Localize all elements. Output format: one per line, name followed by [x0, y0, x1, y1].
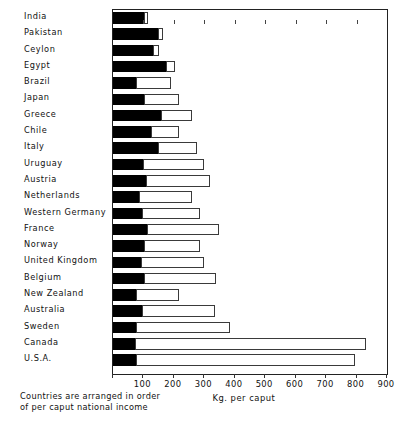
category-label: Greece: [0, 106, 108, 122]
footnote-line-2: of per caput national income: [20, 402, 160, 413]
bar-segment-light: [136, 77, 171, 89]
category-label: Austria: [0, 171, 108, 187]
plot-area: [112, 9, 388, 375]
top-tick-mark: [326, 20, 327, 24]
category-label: Egypt: [0, 57, 108, 73]
bar-segment-light: [143, 159, 204, 171]
bar-segment-light: [166, 61, 175, 73]
bar-segment-dark: [113, 224, 147, 236]
x-tick-mark: [295, 374, 296, 378]
top-tick-mark: [265, 20, 266, 24]
x-tick-mark: [112, 374, 113, 378]
bar-segment-light: [161, 110, 192, 122]
bar-segment-light: [142, 208, 200, 220]
category-label: Japan: [0, 89, 108, 105]
bar-segment-light: [158, 28, 163, 40]
bar-segment-light: [146, 175, 211, 187]
chart-footnote: Countries are arranged in order of per c…: [20, 391, 160, 412]
bars-container: [113, 10, 387, 375]
x-axis-title: Kg. per caput: [212, 393, 275, 403]
x-tick-label: 900: [377, 379, 394, 389]
category-label: Norway: [0, 236, 108, 252]
bar-segment-light: [153, 45, 159, 57]
bar-segment-dark: [113, 28, 158, 40]
bar-segment-light: [141, 257, 204, 269]
top-tick-mark: [204, 20, 205, 24]
x-tick-label: 100: [134, 379, 151, 389]
bar-segment-light: [144, 12, 148, 24]
bar-segment-dark: [113, 77, 136, 89]
top-tick-mark: [174, 20, 175, 24]
bar-segment-dark: [113, 45, 153, 57]
x-tick-label: 800: [347, 379, 364, 389]
x-tick-mark: [234, 374, 235, 378]
bar-segment-light: [136, 289, 179, 301]
category-label: Brazil: [0, 73, 108, 89]
category-label: Sweden: [0, 318, 108, 334]
top-tick-mark: [296, 20, 297, 24]
top-tick-mark: [143, 20, 144, 24]
category-label: Italy: [0, 138, 108, 154]
x-tick-mark: [173, 374, 174, 378]
x-tick-mark: [264, 374, 265, 378]
category-label: U.S.A.: [0, 350, 108, 366]
bar-segment-dark: [113, 126, 151, 138]
bar-segment-dark: [113, 175, 146, 187]
bar-segment-dark: [113, 322, 136, 334]
bar-segment-dark: [113, 191, 139, 203]
x-axis-line: [112, 374, 387, 375]
category-label: India: [0, 8, 108, 24]
x-tick-mark: [142, 374, 143, 378]
bar-segment-dark: [113, 338, 135, 350]
bar-segment-dark: [113, 12, 144, 24]
bar-segment-light: [151, 126, 179, 138]
category-label: Pakistan: [0, 24, 108, 40]
bar-segment-light: [135, 338, 366, 350]
bar-segment-dark: [113, 110, 161, 122]
category-label: Netherlands: [0, 187, 108, 203]
bar-segment-light: [147, 224, 219, 236]
x-tick-mark: [325, 374, 326, 378]
bar-segment-dark: [113, 257, 141, 269]
x-tick-label: 200: [164, 379, 181, 389]
bar-chart: India Pakistan Ceylon Egypt Brazil Japan…: [0, 0, 413, 425]
bar-segment-dark: [113, 208, 142, 220]
bar-segment-dark: [113, 142, 158, 154]
category-label: Western Germany: [0, 204, 108, 220]
bar-segment-light: [144, 240, 200, 252]
bar-segment-dark: [113, 61, 166, 73]
bar-segment-dark: [113, 289, 136, 301]
x-tick-label: 500: [256, 379, 273, 389]
x-tick-mark: [203, 374, 204, 378]
bar-segment-light: [136, 354, 355, 366]
bar-segment-light: [142, 305, 215, 317]
bar-segment-light: [144, 273, 216, 285]
category-label: Canada: [0, 334, 108, 350]
category-label: Australia: [0, 301, 108, 317]
category-label: Uruguay: [0, 155, 108, 171]
x-tick-mark: [386, 374, 387, 378]
category-label: United Kingdom: [0, 252, 108, 268]
category-label: France: [0, 220, 108, 236]
x-tick-label: 400: [225, 379, 242, 389]
bar-segment-dark: [113, 273, 144, 285]
category-label: Ceylon: [0, 41, 108, 57]
category-label: Belgium: [0, 269, 108, 285]
category-label-column: India Pakistan Ceylon Egypt Brazil Japan…: [0, 8, 108, 367]
x-tick-label: 600: [286, 379, 303, 389]
bar-segment-light: [144, 94, 179, 106]
bar-segment-light: [136, 322, 230, 334]
top-tick-mark: [357, 20, 358, 24]
bar-segment-dark: [113, 305, 142, 317]
bar-segment-dark: [113, 159, 143, 171]
bar-segment-dark: [113, 354, 136, 366]
bar-segment-light: [158, 142, 197, 154]
x-tick-label: 300: [195, 379, 212, 389]
category-label: New Zealand: [0, 285, 108, 301]
category-label: Chile: [0, 122, 108, 138]
top-tick-mark: [235, 20, 236, 24]
footnote-line-1: Countries are arranged in order: [20, 391, 160, 402]
x-tick-mark: [356, 374, 357, 378]
bar-segment-dark: [113, 240, 144, 252]
bar-segment-dark: [113, 94, 144, 106]
